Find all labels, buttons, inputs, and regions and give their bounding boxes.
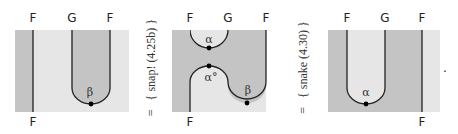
d3-top-label-F2: F xyxy=(419,11,426,25)
d3-alpha-label: α xyxy=(362,86,369,99)
d1-top-label-F: F xyxy=(30,11,37,25)
d1-beta-label: β xyxy=(87,86,93,99)
d2-beta-label: β xyxy=(245,84,251,97)
justification-snake: { snake (4.30) } xyxy=(296,21,310,98)
beta-node xyxy=(245,101,250,106)
d2-bottom-label-F: F xyxy=(187,115,194,129)
diagram-1 xyxy=(15,30,129,112)
alpha-node xyxy=(364,102,369,107)
alpha-circ-node xyxy=(207,64,212,69)
diagram-3 xyxy=(328,30,440,112)
d3-top-label-F: F xyxy=(344,11,351,25)
d2-top-label-G: G xyxy=(223,11,232,25)
justification-snap: { snap! (4.25b) } xyxy=(144,19,158,101)
beta-node xyxy=(89,102,94,107)
equation-1: = { snap! (4.25b) } xyxy=(144,13,159,123)
alpha-node xyxy=(207,46,212,51)
d1-bottom-label-F: F xyxy=(30,115,37,129)
d1-top-label-G: G xyxy=(67,11,76,25)
d3-top-label-G: G xyxy=(380,11,389,25)
d2-alpha-label: α xyxy=(205,33,212,46)
equation-2: = { snake (4.30) } xyxy=(296,13,311,123)
d2-alpha-circ-label: α° xyxy=(205,71,218,84)
equals-sign: = xyxy=(296,107,310,114)
d2-top-label-F2: F xyxy=(263,11,270,25)
d3-bottom-label-F: F xyxy=(419,115,426,129)
d2-top-label-F: F xyxy=(187,11,194,25)
d1-top-label-F2: F xyxy=(107,11,114,25)
equals-sign: = xyxy=(144,109,158,116)
terminal-period: . xyxy=(443,61,447,75)
diagram-2 xyxy=(172,30,266,112)
